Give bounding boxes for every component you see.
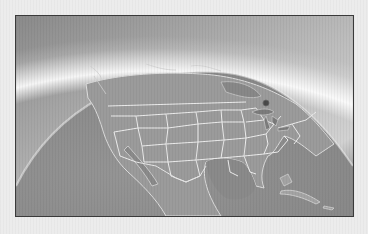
globe-image-frame [15,15,354,217]
globe-map-illustration [16,16,353,216]
scanline-texture [16,16,353,216]
